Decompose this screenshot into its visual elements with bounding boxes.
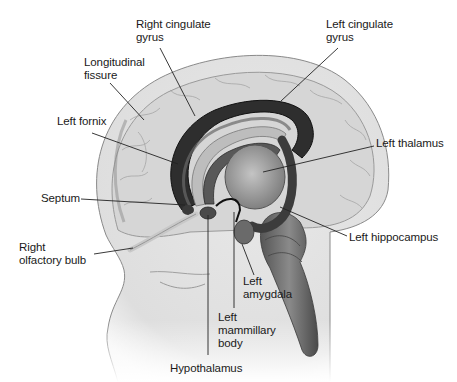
label-septum: Septum	[41, 192, 80, 205]
label-left-cingulate-gyrus: Left cingulate gyrus	[326, 18, 393, 44]
label-left-hippocampus: Left hippocampus	[349, 231, 438, 244]
amygdala	[234, 220, 254, 244]
label-left-fornix: Left fornix	[57, 115, 106, 128]
limbic-system-diagram: Right cingulate gyrus Left cingulate gyr…	[0, 0, 457, 382]
label-right-olfactory-bulb: Right olfactory bulb	[19, 241, 86, 267]
label-left-thalamus: Left thalamus	[376, 137, 444, 150]
label-longitudinal-fissure: Longitudinal fissure	[84, 56, 145, 82]
label-hypothalamus: Hypothalamus	[170, 362, 242, 375]
label-left-amygdala: Left amygdala	[243, 275, 292, 301]
label-right-cingulate-gyrus: Right cingulate gyrus	[136, 18, 211, 44]
label-left-mammillary-body: Left mammillary body	[218, 311, 276, 350]
